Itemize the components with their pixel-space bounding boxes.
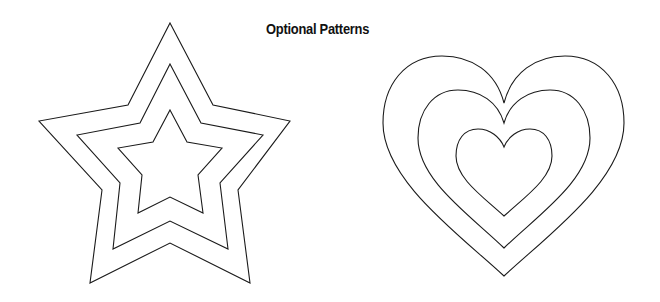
heart-outer-outline bbox=[383, 56, 624, 276]
star-pattern bbox=[39, 23, 290, 283]
star-middle-outline bbox=[77, 64, 263, 249]
heart-pattern bbox=[383, 56, 624, 276]
heart-inner-outline bbox=[456, 129, 552, 216]
star-inner-outline bbox=[118, 110, 222, 213]
heart-middle-outline bbox=[418, 90, 590, 248]
star-outer-outline bbox=[39, 23, 290, 283]
patterns-canvas bbox=[0, 0, 660, 302]
